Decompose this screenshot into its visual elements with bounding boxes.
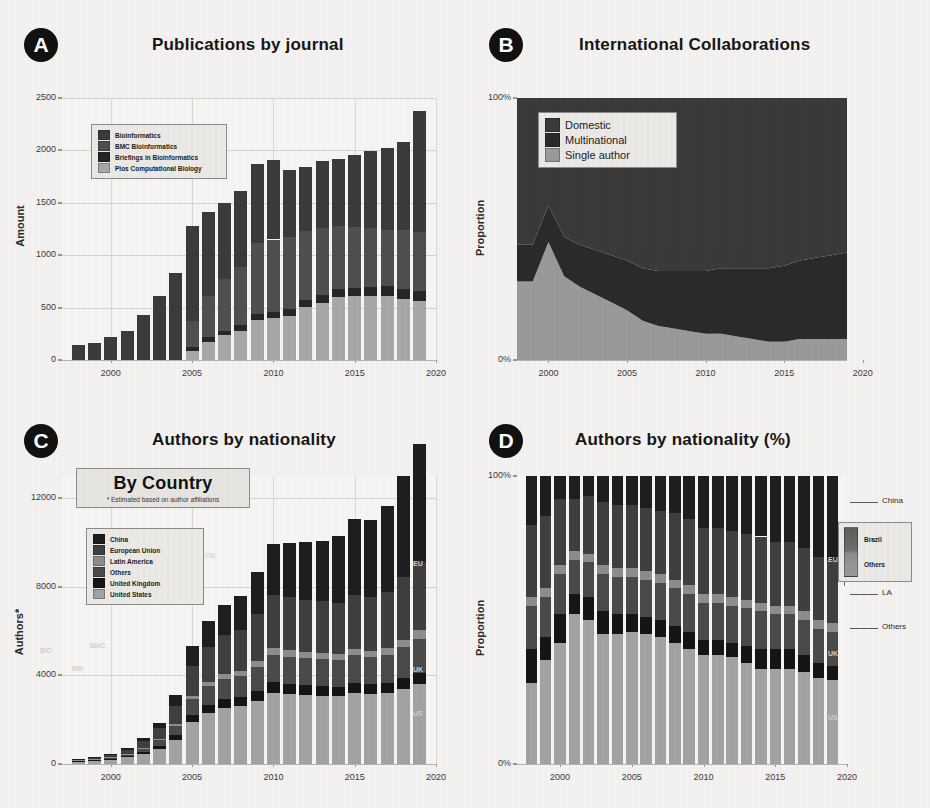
bar-segment: [218, 203, 231, 280]
bar-segment: [683, 594, 694, 631]
bar-segment: [770, 606, 781, 615]
bar-segment: [332, 660, 345, 686]
y-tick-label: 100%: [471, 92, 511, 102]
bar: [712, 476, 723, 764]
bar-segment: [153, 740, 166, 746]
bar-segment: [755, 669, 766, 764]
bar-segment: [755, 603, 766, 612]
bar-segment: [169, 726, 182, 735]
bar-segment: [234, 331, 247, 360]
bar-segment: [251, 691, 264, 701]
bar-segment: [234, 697, 247, 706]
x-tick-label: 2000: [546, 772, 574, 782]
bar-segment: [540, 588, 551, 597]
bar: [267, 98, 280, 360]
bar-segment: [413, 562, 426, 631]
bar-segment: [755, 611, 766, 648]
bar-segment: [798, 611, 809, 620]
legend-swatch: [93, 545, 105, 555]
bar: [583, 476, 594, 764]
bar-segment: [299, 652, 312, 658]
bar-segment: [698, 640, 709, 654]
bar-segment: [153, 739, 166, 740]
x-axis-line: [62, 360, 436, 361]
legend-swatch: [98, 141, 110, 151]
legend-swatch: [545, 118, 560, 132]
bar: [251, 476, 264, 764]
legend-label: China: [110, 536, 128, 543]
bar-segment: [299, 542, 312, 600]
bar: [348, 98, 361, 360]
panel-a-legend: Bioinformatics BMC Bioinformatics Briefi…: [91, 124, 227, 179]
y-tick-label: 4000: [16, 669, 56, 679]
bar-segment: [316, 161, 329, 228]
bar: [234, 476, 247, 764]
bar: [626, 476, 637, 764]
bar: [137, 476, 150, 764]
bar-segment: [698, 594, 709, 603]
bar: [397, 476, 410, 764]
legend-label: Domestic: [565, 119, 611, 131]
bar-segment: [104, 759, 117, 760]
x-tick-label: 2000: [534, 368, 562, 378]
bar-segment: [569, 551, 580, 560]
bar-segment: [813, 629, 824, 664]
bar-segment: [104, 755, 117, 757]
legend-label: Bioinformatics: [115, 132, 161, 139]
bar-segment: [540, 660, 551, 764]
bar-segment: [640, 508, 651, 571]
panel-d-title: Authors by nationality (%): [575, 430, 791, 450]
bar-segment: [755, 537, 766, 603]
bar-segment: [597, 565, 608, 574]
bar-segment: [683, 519, 694, 585]
bar-segment: [397, 577, 410, 639]
bar-segment: [316, 686, 329, 696]
bar-segment: [299, 300, 312, 307]
bar-segment: [381, 683, 394, 693]
bar-segment: [798, 620, 809, 655]
bar-segment: [283, 309, 296, 316]
bar-segment: [397, 476, 410, 578]
legend-item: China: [93, 534, 197, 544]
bar: [597, 476, 608, 764]
bar: [348, 476, 361, 764]
bar-segment: [332, 289, 345, 297]
bar-segment: [316, 696, 329, 764]
bar: [381, 476, 394, 764]
bar-segment: [381, 506, 394, 592]
bar-segment: [413, 673, 426, 684]
y-tick-label: 1000: [16, 249, 56, 259]
legend-label: Others: [110, 569, 131, 576]
x-tick-label: 2015: [341, 772, 369, 782]
bar-segment: [169, 273, 182, 361]
bar-segment: [267, 655, 280, 683]
bar-segment: [332, 226, 345, 289]
legend-item: BMC Bioinformatics: [98, 141, 220, 151]
bar-segment: [540, 597, 551, 637]
x-axis-line: [517, 360, 847, 361]
bar: [813, 476, 824, 764]
panel-b-legend: Domestic Multinational Single author: [538, 112, 677, 168]
bar-segment: [251, 320, 264, 360]
bar-segment: [755, 649, 766, 669]
bar-segment: [569, 594, 580, 614]
legend-label: Single author: [565, 149, 630, 161]
x-tick-mark: [863, 360, 864, 363]
bar-segment: [413, 111, 426, 233]
panel-d-inbar-uk: UK: [828, 650, 838, 657]
bar-segment: [234, 671, 247, 676]
bar-segment: [655, 511, 666, 574]
bar-segment: [798, 672, 809, 764]
panel-d-inbar-eu: EU: [828, 556, 838, 563]
bar-segment: [554, 565, 565, 574]
bar-segment: [669, 476, 680, 513]
bar: [218, 476, 231, 764]
bar-segment: [813, 557, 824, 620]
bar-segment: [741, 608, 752, 645]
legend-swatch: [93, 534, 105, 544]
bar-segment: [283, 316, 296, 360]
x-tick-label: 2010: [692, 368, 720, 378]
bar-segment: [612, 634, 623, 764]
panel-a-ylabel: Amount: [14, 205, 26, 247]
bar-segment: [137, 752, 150, 754]
